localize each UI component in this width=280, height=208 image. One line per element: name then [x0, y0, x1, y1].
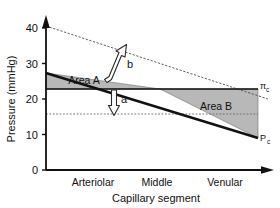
- pressure-vs-capillary-segment-chart: 40 30 20 10 0 Pressure (mmHg) Arteriolar…: [0, 0, 280, 208]
- area-b-label: Area B: [200, 100, 232, 112]
- chart-figure: 40 30 20 10 0 Pressure (mmHg) Arteriolar…: [0, 0, 280, 208]
- y-tick-label-10: 10: [26, 129, 38, 141]
- x-category-middle: Middle: [142, 176, 173, 188]
- x-category-venular: Venular: [207, 176, 243, 188]
- y-tick-label-0: 0: [32, 164, 38, 176]
- y-tick-label-20: 20: [26, 93, 38, 105]
- y-axis-title: Pressure (mmHg): [5, 56, 17, 143]
- arrow-b-label: b: [127, 58, 133, 70]
- arrow-a-label: a: [121, 93, 128, 105]
- p-c-symbol: P: [260, 133, 266, 143]
- x-axis-title: Capillary segment: [112, 192, 200, 204]
- area-a-label: Area A: [68, 74, 100, 86]
- x-category-arteriolar: Arteriolar: [72, 176, 115, 188]
- y-tick-label-30: 30: [26, 58, 38, 70]
- y-tick-label-40: 40: [26, 22, 38, 34]
